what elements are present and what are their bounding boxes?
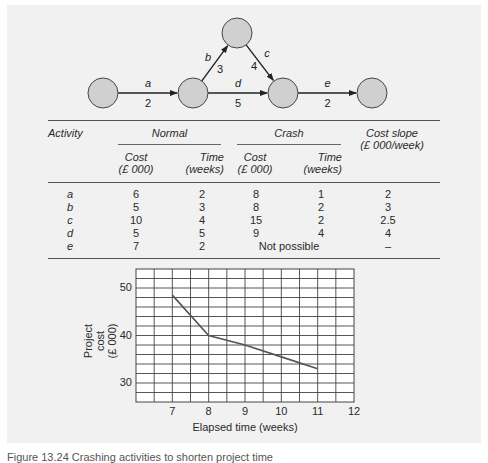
y-axis-label-line2: (£ 000) bbox=[106, 314, 118, 368]
x-tick-label: 7 bbox=[160, 405, 184, 417]
figure-caption: Figure 13.24 Crashing activities to shor… bbox=[7, 451, 273, 463]
y-axis-label: Project cost (£ 000) bbox=[82, 314, 112, 368]
y-tick-label: 50 bbox=[112, 281, 132, 293]
x-axis-label: Elapsed time (weeks) bbox=[136, 421, 354, 433]
x-tick-label: 8 bbox=[197, 405, 221, 417]
x-tick-label: 9 bbox=[233, 405, 257, 417]
x-tick-label: 11 bbox=[306, 405, 330, 417]
x-tick-label: 10 bbox=[269, 405, 293, 417]
x-tick-label: 12 bbox=[342, 405, 366, 417]
y-axis-label-line1: Project cost bbox=[82, 314, 106, 368]
y-tick-label: 30 bbox=[112, 376, 132, 388]
